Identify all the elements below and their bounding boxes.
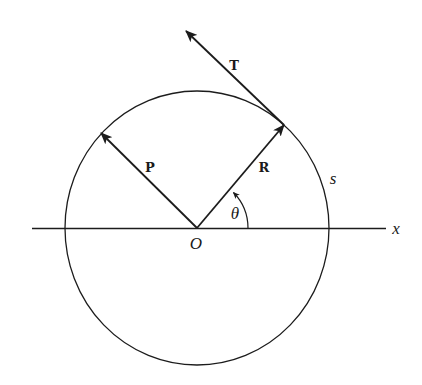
label-t: T — [229, 58, 239, 73]
label-s: s — [330, 169, 337, 188]
label-r: R — [259, 160, 270, 175]
vector-r-arrow — [197, 125, 284, 228]
label-origin: O — [190, 234, 202, 253]
label-p: P — [145, 160, 155, 175]
label-x-axis: x — [391, 219, 400, 238]
vector-p-arrow — [101, 133, 197, 228]
tangent-vector-t-arrow — [186, 31, 284, 125]
circle-vector-diagram: T P R s θ O x — [0, 0, 422, 385]
label-theta: θ — [231, 204, 239, 223]
